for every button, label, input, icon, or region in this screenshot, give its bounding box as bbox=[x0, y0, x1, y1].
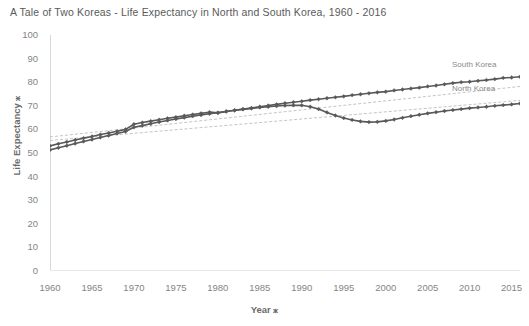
data-point-marker bbox=[149, 122, 153, 126]
data-point-marker bbox=[493, 77, 497, 81]
data-point-marker bbox=[73, 142, 77, 146]
data-point-marker bbox=[342, 116, 346, 120]
x-axis-tick: 1970 bbox=[123, 283, 144, 293]
data-point-marker bbox=[224, 110, 228, 114]
data-point-marker bbox=[308, 105, 312, 109]
data-point-marker bbox=[233, 108, 237, 112]
data-point-marker bbox=[367, 91, 371, 95]
x-axis-tick: 2000 bbox=[375, 283, 396, 293]
data-point-marker bbox=[409, 114, 413, 118]
data-point-marker bbox=[476, 79, 480, 83]
data-point-marker bbox=[510, 102, 514, 106]
y-axis-tick: 60 bbox=[27, 124, 38, 134]
series-label-north-korea: North Korea bbox=[452, 84, 495, 93]
data-point-marker bbox=[493, 104, 497, 108]
plot-area bbox=[50, 35, 520, 271]
data-point-marker bbox=[350, 93, 354, 97]
chart-title: A Tale of Two Koreas - Life Expectancy i… bbox=[10, 6, 386, 18]
data-point-marker bbox=[501, 76, 505, 80]
y-axis-tick: 90 bbox=[27, 54, 38, 64]
y-axis-title: Life Expectancy ⁎ bbox=[11, 76, 22, 196]
data-point-marker bbox=[468, 106, 472, 110]
y-axis-tick: 80 bbox=[27, 77, 38, 87]
y-axis-tick: 70 bbox=[27, 101, 38, 111]
y-axis-tick: 40 bbox=[27, 172, 38, 182]
y-axis-tick: 30 bbox=[27, 195, 38, 205]
trendline bbox=[50, 86, 520, 137]
data-point-marker bbox=[241, 107, 245, 111]
x-axis-tick: 1965 bbox=[81, 283, 102, 293]
data-point-marker bbox=[401, 88, 405, 92]
y-axis-tick-labels: 1009080706050403020100 bbox=[0, 28, 44, 278]
data-point-marker bbox=[401, 116, 405, 120]
x-axis-title: Year ⁎ bbox=[0, 304, 529, 315]
y-axis-tick: 20 bbox=[27, 219, 38, 229]
y-axis-tick: 50 bbox=[27, 148, 38, 158]
x-axis-tick: 1960 bbox=[39, 283, 60, 293]
data-point-marker bbox=[342, 94, 346, 98]
data-point-marker bbox=[300, 103, 304, 107]
data-point-marker bbox=[367, 120, 371, 124]
data-point-marker bbox=[375, 120, 379, 124]
series-label-south-korea: South Korea bbox=[452, 60, 496, 69]
x-axis-tick: 1980 bbox=[207, 283, 228, 293]
data-point-marker bbox=[333, 95, 337, 99]
data-point-marker bbox=[317, 97, 321, 101]
x-axis-tick: 1995 bbox=[333, 283, 354, 293]
data-point-marker bbox=[409, 87, 413, 91]
data-point-marker bbox=[417, 86, 421, 90]
chart-container: A Tale of Two Koreas - Life Expectancy i… bbox=[0, 0, 529, 326]
data-point-marker bbox=[325, 96, 329, 100]
data-point-marker bbox=[308, 98, 312, 102]
data-point-marker bbox=[56, 146, 60, 150]
data-point-marker bbox=[434, 110, 438, 114]
data-point-marker bbox=[443, 82, 447, 86]
data-point-marker bbox=[300, 99, 304, 103]
data-point-marker bbox=[56, 142, 60, 146]
data-point-marker bbox=[518, 75, 520, 79]
data-point-marker bbox=[392, 89, 396, 93]
data-point-marker bbox=[417, 113, 421, 117]
y-axis-tick: 0 bbox=[33, 266, 38, 276]
x-axis-tick: 2015 bbox=[501, 283, 522, 293]
data-point-marker bbox=[426, 111, 430, 115]
x-axis-tick: 2010 bbox=[459, 283, 480, 293]
data-point-marker bbox=[434, 84, 438, 88]
data-point-marker bbox=[82, 140, 86, 144]
y-axis-tick: 10 bbox=[27, 242, 38, 252]
x-axis-tick: 1985 bbox=[249, 283, 270, 293]
x-axis-tick-labels: 1960196519701975198019851990199520002005… bbox=[0, 283, 529, 299]
data-point-marker bbox=[392, 118, 396, 122]
data-point-marker bbox=[459, 107, 463, 111]
data-point-marker bbox=[518, 102, 520, 106]
chart-plot-svg bbox=[50, 35, 520, 271]
data-point-marker bbox=[107, 134, 111, 138]
series-line-north-korea bbox=[50, 103, 520, 149]
data-point-marker bbox=[510, 76, 514, 80]
data-point-marker bbox=[65, 144, 69, 148]
data-point-marker bbox=[90, 138, 94, 142]
data-point-marker bbox=[451, 108, 455, 112]
data-point-marker bbox=[426, 85, 430, 89]
data-point-marker bbox=[216, 111, 220, 115]
data-point-marker bbox=[291, 103, 295, 107]
data-point-marker bbox=[485, 78, 489, 82]
x-axis-tick: 1990 bbox=[291, 283, 312, 293]
x-axis-tick: 2005 bbox=[417, 283, 438, 293]
data-point-marker bbox=[359, 119, 363, 123]
data-point-marker bbox=[65, 140, 69, 144]
y-axis-tick: 100 bbox=[22, 30, 38, 40]
data-point-marker bbox=[501, 103, 505, 107]
data-point-marker bbox=[375, 90, 379, 94]
data-point-marker bbox=[359, 92, 363, 96]
data-point-marker bbox=[384, 90, 388, 94]
data-point-marker bbox=[350, 118, 354, 122]
data-point-marker bbox=[73, 138, 77, 142]
data-point-marker bbox=[476, 106, 480, 110]
x-axis-tick: 1975 bbox=[165, 283, 186, 293]
data-point-marker bbox=[485, 105, 489, 109]
data-point-marker bbox=[443, 109, 447, 113]
data-point-marker bbox=[384, 119, 388, 123]
data-point-marker bbox=[283, 104, 287, 108]
